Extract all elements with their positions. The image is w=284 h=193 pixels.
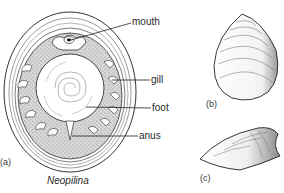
label-mouth: mouth [132, 17, 160, 27]
caption-a: (a) [0, 158, 11, 167]
label-gill: gill [151, 75, 163, 85]
label-foot: foot [152, 103, 169, 113]
panel-a-animal [4, 12, 151, 172]
label-anus: anus [139, 131, 161, 141]
caption-c: (c) [200, 174, 211, 183]
panel-b-shell-dorsal [214, 14, 278, 100]
panel-c-shell-lateral [200, 128, 280, 170]
figure-title: Neopilina [47, 175, 89, 186]
caption-b: (b) [206, 100, 217, 109]
neopilina-diagram [0, 0, 284, 193]
